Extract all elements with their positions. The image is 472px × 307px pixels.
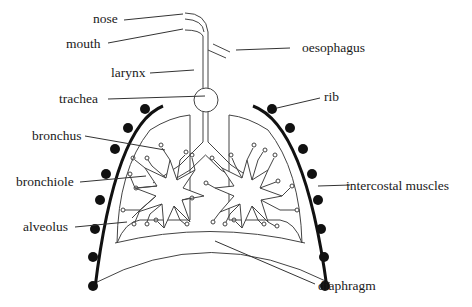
diaphragm xyxy=(95,253,330,284)
label-nose: nose xyxy=(93,12,118,26)
diaphragm-upper xyxy=(115,232,305,244)
larynx xyxy=(194,88,218,112)
respiratory-diagram: nose mouth larynx trachea bronchus bronc… xyxy=(0,0,472,307)
left-ribcage xyxy=(88,104,163,291)
label-bronchus: bronchus xyxy=(32,129,82,143)
label-trachea: trachea xyxy=(59,92,98,106)
right-bronchiole-star xyxy=(215,160,282,228)
label-intercostal-muscles: intercostal muscles xyxy=(346,179,449,193)
label-alveolus: alveolus xyxy=(23,220,68,234)
label-larynx: larynx xyxy=(111,66,146,80)
label-mouth: mouth xyxy=(66,37,101,51)
label-bronchiole: bronchiole xyxy=(16,175,74,189)
nose-passage-upper xyxy=(185,13,208,32)
label-diaphragm: diaphragm xyxy=(318,279,376,293)
label-rib: rib xyxy=(324,90,339,104)
mouth-passage xyxy=(185,30,203,36)
left-bronchiole-star xyxy=(135,160,204,228)
label-oesophagus: oesophagus xyxy=(302,41,365,55)
